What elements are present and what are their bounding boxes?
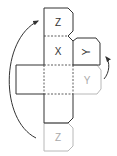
face-bottom: [44, 94, 73, 123]
label-z-ghost: Z: [55, 132, 61, 143]
label-y-ghost: Y: [84, 75, 91, 86]
label-top-z: Z: [55, 17, 61, 28]
fold-arrow-left: [9, 21, 38, 138]
face-center-dashed: [44, 65, 73, 94]
face-left: [16, 65, 44, 94]
cube-net-diagram: Z X Y Y Z: [0, 0, 117, 156]
label-y-folded: Y: [81, 48, 92, 55]
fold-arrow-right: [104, 57, 109, 79]
label-x: X: [55, 46, 62, 57]
